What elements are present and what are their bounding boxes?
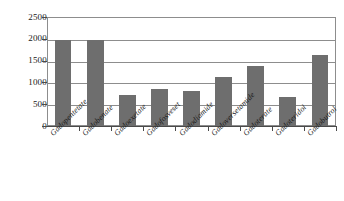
x-tick-mark (336, 127, 337, 131)
bars-layer (47, 17, 336, 126)
y-tick-label-500: 500 (3, 100, 47, 109)
y-axis: 2500 2000 1500 1000 500 0 (0, 0, 47, 201)
y-tick-label-0: 0 (3, 122, 47, 131)
y-tick-label-2000: 2000 (3, 34, 47, 43)
bar-chart: 2500 2000 1500 1000 500 0 GadopentetateG… (0, 0, 344, 201)
y-tick-label-2500: 2500 (3, 13, 47, 22)
y-tick-label-1500: 1500 (3, 56, 47, 65)
y-tick-label-1000: 1000 (3, 78, 47, 87)
